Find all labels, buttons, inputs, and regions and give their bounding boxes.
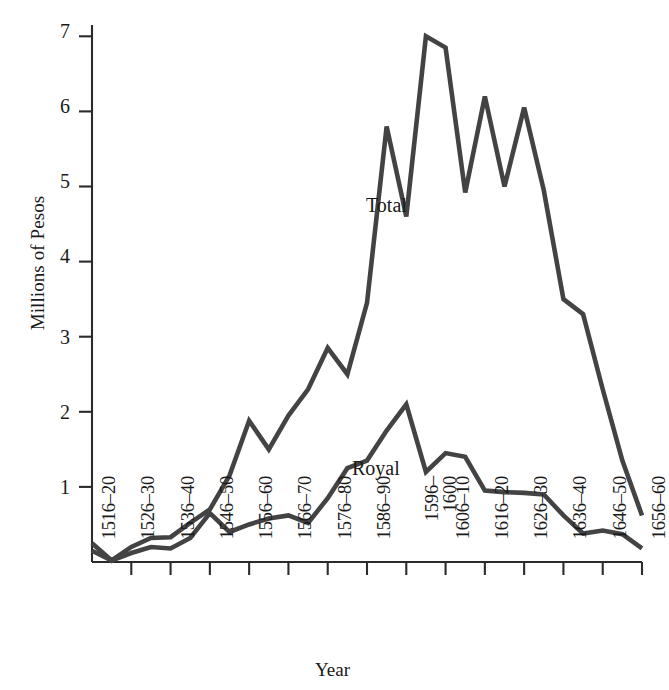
series-annotation-royal: Royal: [352, 458, 400, 478]
series-line-total: [92, 36, 642, 560]
x-tick-label-1: 1526–30: [139, 476, 158, 580]
y-tick-label-7: 7: [36, 21, 70, 41]
x-tick-label-0: 1516–20: [100, 476, 119, 580]
y-tick-label-1: 1: [36, 477, 70, 497]
x-tick-label-12: 1636–40: [571, 476, 590, 580]
series-annotation-total: Total: [366, 195, 407, 215]
x-tick-label-10: 1616–20: [493, 476, 512, 580]
x-tick-label-13: 1646–50: [611, 476, 630, 580]
y-tick-marks: [79, 36, 92, 487]
x-tick-label-14: 1656–60: [650, 476, 669, 580]
x-tick-label-6: 1576–80: [336, 476, 355, 580]
y-tick-label-4: 4: [36, 246, 70, 266]
y-tick-label-2: 2: [36, 402, 70, 422]
y-tick-label-3: 3: [36, 327, 70, 347]
x-tick-label-11: 1626–30: [532, 476, 551, 580]
x-tick-label-7: 1586–90: [375, 476, 394, 580]
y-tick-label-6: 6: [36, 96, 70, 116]
x-axis-title: Year: [0, 659, 665, 681]
x-tick-label-5: 1566–70: [296, 476, 315, 580]
x-tick-label-9: 1606–10: [454, 476, 473, 580]
x-tick-label-4: 1556–60: [257, 476, 276, 580]
y-tick-label-5: 5: [36, 171, 70, 191]
x-tick-label-2: 1536–40: [179, 476, 198, 580]
x-tick-label-3: 1546–50: [218, 476, 237, 580]
